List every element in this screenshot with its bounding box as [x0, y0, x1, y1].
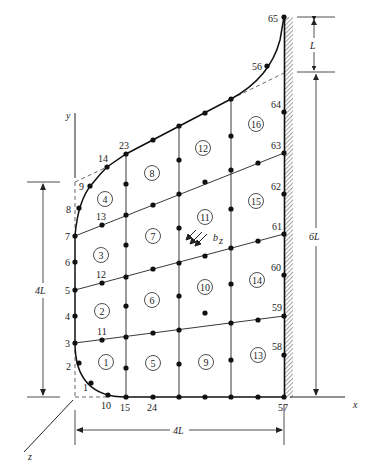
element-3: 3 [94, 248, 109, 263]
node-3 [72, 340, 77, 345]
node-label-3: 3 [65, 338, 70, 349]
dim-4L-left-label: 4L [35, 285, 46, 296]
element-5: 5 [146, 356, 161, 371]
node-label-58: 58 [272, 341, 282, 352]
svg-text:9: 9 [204, 357, 209, 368]
dimension-L-top: L [297, 17, 335, 72]
node-label-2: 2 [66, 361, 71, 372]
y-axis-label: y [65, 110, 71, 121]
element-4: 4 [98, 192, 113, 207]
node-label-60: 60 [271, 262, 281, 273]
node-label-23: 23 [119, 140, 129, 151]
dimension-4L-bottom: 4L [75, 405, 284, 445]
element-14: 14 [250, 273, 265, 288]
body-force-subscript: z [218, 235, 223, 246]
node-13 [99, 222, 104, 227]
node-label-24: 24 [147, 402, 157, 413]
node-label-11: 11 [97, 326, 107, 337]
node-label-59: 59 [272, 302, 282, 313]
node-label-6: 6 [65, 257, 70, 268]
fem-mesh-diagram: y x z L 6L [0, 0, 378, 466]
dim-4L-bottom-label: 4L [173, 425, 184, 436]
node-label-63: 63 [271, 140, 281, 151]
dim-L-label: L [309, 40, 316, 51]
x-axis-label: x [352, 399, 358, 410]
svg-text:11: 11 [200, 212, 210, 223]
node-15 [123, 394, 128, 399]
svg-text:5: 5 [151, 358, 156, 369]
element-6: 6 [145, 293, 160, 308]
node-label-10: 10 [101, 400, 111, 411]
node-57 [281, 394, 286, 399]
svg-text:8: 8 [150, 168, 155, 179]
svg-text:1: 1 [104, 357, 109, 368]
dim-6L-label: 6L [309, 231, 320, 242]
element-12: 12 [196, 141, 211, 156]
node-6 [72, 259, 77, 264]
fixed-wall [285, 17, 294, 398]
node-10 [105, 392, 110, 397]
dimension-4L-left: 4L [27, 182, 60, 397]
element-9: 9 [199, 355, 214, 370]
svg-text:14: 14 [252, 275, 262, 286]
node-label-4: 4 [65, 311, 70, 322]
svg-text:7: 7 [151, 231, 156, 242]
element-10: 10 [198, 280, 213, 295]
element-13: 13 [251, 348, 266, 363]
node-label-1: 1 [83, 382, 88, 393]
node-62 [281, 191, 286, 196]
node-12 [99, 280, 104, 285]
svg-text:13: 13 [253, 350, 263, 361]
node-label-8: 8 [66, 204, 71, 215]
svg-text:10: 10 [200, 282, 210, 293]
node-label-13: 13 [96, 211, 106, 222]
svg-text:16: 16 [251, 119, 261, 130]
node-label-15: 15 [120, 402, 130, 413]
node-64 [281, 109, 286, 114]
element-16: 16 [249, 117, 264, 132]
node-label-57: 57 [278, 402, 288, 413]
node-9 [87, 183, 92, 188]
node-label-14: 14 [98, 153, 108, 164]
element-11: 11 [198, 210, 213, 225]
node-label-62: 62 [271, 181, 281, 192]
node-60 [281, 272, 286, 277]
node-label-61: 61 [272, 221, 282, 232]
node-2 [76, 360, 81, 365]
node-label-64: 64 [271, 99, 281, 110]
node-63 [281, 150, 286, 155]
node-14 [104, 164, 109, 169]
dimension-6L-right: 6L [309, 74, 320, 396]
svg-text:2: 2 [100, 306, 105, 317]
element-2: 2 [95, 304, 110, 319]
svg-text:6: 6 [150, 295, 155, 306]
interior-nodes [123, 96, 260, 399]
node-8 [76, 205, 81, 210]
node-23 [123, 151, 128, 156]
node-1 [88, 380, 93, 385]
z-axis-label: z [27, 451, 32, 462]
node-label-7: 7 [65, 231, 70, 242]
node-4 [72, 313, 77, 318]
coordinate-axes: y x z [24, 110, 358, 462]
z-axis [24, 400, 73, 452]
node-58 [281, 352, 286, 357]
node-7 [72, 233, 77, 238]
element-15: 15 [249, 194, 264, 209]
node-label-9: 9 [79, 181, 84, 192]
node-61 [281, 231, 286, 236]
node-65 [281, 14, 286, 19]
element-8: 8 [145, 166, 160, 181]
node-label-12: 12 [96, 269, 106, 280]
node-56 [264, 63, 269, 68]
element-7: 7 [146, 229, 161, 244]
node-59 [281, 313, 286, 318]
element-1: 1 [99, 355, 114, 370]
node-label-65: 65 [268, 13, 278, 24]
node-24 [150, 394, 155, 399]
svg-text:12: 12 [198, 143, 208, 154]
body-force-arrows [186, 230, 207, 246]
svg-text:4: 4 [103, 194, 108, 205]
svg-text:15: 15 [251, 196, 261, 207]
svg-text:3: 3 [99, 250, 104, 261]
